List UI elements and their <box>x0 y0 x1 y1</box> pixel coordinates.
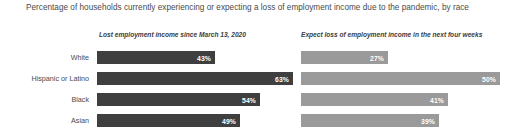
bar-value-expect-loss-white: 27% <box>370 54 384 61</box>
bar-value-lost-income-hispanic-or-latino: 63% <box>275 75 289 82</box>
bar-value-lost-income-black: 54% <box>242 96 256 103</box>
bar-value-lost-income-white: 43% <box>197 54 211 61</box>
bar-expect-loss-hispanic-or-latino: 50% <box>301 72 500 85</box>
bar-lost-income-black: 54% <box>97 93 260 106</box>
column-header-lost-income: Lost employment income since March 13, 2… <box>99 31 289 39</box>
bar-value-expect-loss-hispanic-or-latino: 50% <box>482 75 496 82</box>
chart-figure: Percentage of households currently exper… <box>0 0 516 135</box>
bar-value-expect-loss-asian: 39% <box>421 117 435 124</box>
column-header-expect-loss: Expect loss of employment income in the … <box>301 31 501 39</box>
row-label-hispanic-or-latino: Hispanic or Latino <box>0 74 89 84</box>
bar-lost-income-asian: 49% <box>97 114 240 127</box>
row-label-asian: Asian <box>0 116 89 126</box>
row-label-white: White <box>0 53 89 63</box>
bar-expect-loss-asian: 39% <box>301 114 439 127</box>
bar-value-expect-loss-black: 41% <box>430 96 444 103</box>
page-title: Percentage of households currently exper… <box>26 2 488 13</box>
bar-expect-loss-white: 27% <box>301 51 388 64</box>
row-label-black: Black <box>0 95 89 105</box>
bar-lost-income-white: 43% <box>97 51 215 64</box>
bar-lost-income-hispanic-or-latino: 63% <box>97 72 293 85</box>
bar-expect-loss-black: 41% <box>301 93 448 106</box>
bar-value-lost-income-asian: 49% <box>222 117 236 124</box>
